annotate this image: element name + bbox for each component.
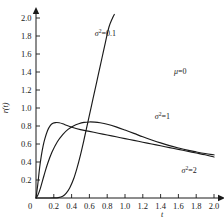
x-tick-labels: 0.20.40.60.81.01.21.41.61.82.0: [48, 201, 219, 211]
chart-svg: 0.20.40.60.81.01.21.41.61.82.0 0.20.40.6…: [0, 0, 224, 222]
y-tick-label: 1.8: [21, 31, 32, 41]
y-axis-arrow-icon: [33, 7, 39, 14]
curve-0p1: [36, 14, 114, 198]
x-tick-label: 1.2: [137, 201, 148, 211]
x-tick-label: 0.2: [48, 201, 59, 211]
y-tick-label: 0.4: [21, 157, 32, 167]
x-tick-label: 2.0: [209, 201, 220, 211]
x-tick-label: 0.6: [84, 201, 95, 211]
y-tick-label: 0.2: [21, 175, 32, 185]
x-tick-marks: [54, 194, 214, 198]
x-tick-label: 1.6: [173, 201, 184, 211]
x-tick-label: 1.0: [120, 201, 131, 211]
svg-text:μ=0: μ=0: [173, 67, 187, 76]
origin-tick-label: 0: [28, 201, 32, 211]
y-tick-label: 1.0: [21, 103, 32, 113]
annotation-group: μ=0σ2=0.1σ2=1σ2=2: [95, 28, 197, 175]
y-tick-label: 1.4: [21, 67, 32, 77]
svg-text:σ2=0.1: σ2=0.1: [95, 28, 116, 38]
x-axis-group: 0.20.40.60.81.01.21.41.61.82.0: [36, 194, 224, 211]
x-axis-title: t: [161, 210, 164, 219]
curve-2: [36, 122, 214, 198]
y-tick-labels: 0.20.40.60.81.01.21.41.61.82.0: [21, 13, 32, 185]
mu-annotation: μ=0: [173, 67, 187, 76]
y-tick-label: 1.6: [21, 49, 32, 59]
hazard-rate-chart: 0.20.40.60.81.01.21.41.61.82.0 0.20.40.6…: [0, 0, 224, 222]
sigma-0p1-annotation: σ2=0.1: [95, 28, 116, 38]
x-tick-label: 0.8: [102, 201, 113, 211]
sigma-2-annotation: σ2=2: [181, 165, 196, 175]
sigma-1-annotation: σ2=1: [155, 111, 170, 121]
svg-text:σ2=2: σ2=2: [181, 165, 196, 175]
svg-text:σ2=1: σ2=1: [155, 111, 170, 121]
y-axis-title: r(t): [1, 102, 10, 113]
x-tick-label: 1.8: [191, 201, 202, 211]
y-tick-label: 0.6: [21, 139, 32, 149]
y-tick-label: 0.8: [21, 121, 32, 131]
y-axis-group: 0.20.40.60.81.01.21.41.61.82.0: [21, 7, 40, 198]
y-tick-label: 1.2: [21, 85, 32, 95]
y-tick-marks: [36, 18, 40, 180]
y-tick-label: 2.0: [21, 13, 32, 23]
x-tick-label: 0.4: [66, 201, 77, 211]
